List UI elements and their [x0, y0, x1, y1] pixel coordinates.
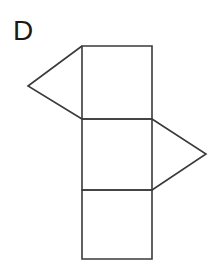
square-bottom-shape — [82, 190, 152, 259]
triangle-left-shape — [28, 46, 82, 119]
geometric-net-diagram — [0, 0, 221, 270]
square-top-shape — [82, 46, 152, 119]
triangle-right-shape — [152, 119, 206, 190]
square-middle-shape — [82, 119, 152, 190]
figure-canvas: D — [0, 0, 221, 270]
